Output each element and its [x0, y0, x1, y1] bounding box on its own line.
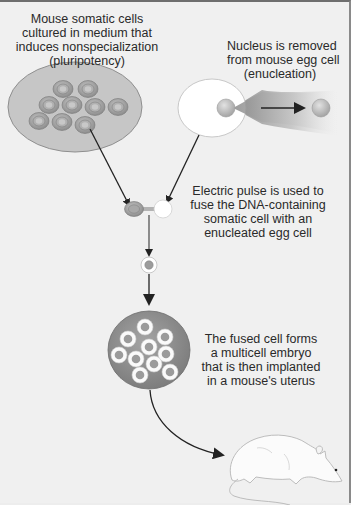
embryo: [108, 311, 190, 389]
arrow-embryo-to-mouse: [150, 390, 222, 455]
step-label-fusion: Electric pulse is used to fuse the DNA-c…: [178, 184, 338, 240]
fusing-cells: [125, 200, 173, 218]
step-label-embryo: The fused cell forms a multicell embryo …: [196, 332, 326, 388]
step-label-somatic-culture: Mouse somatic cells cultured in medium t…: [7, 12, 167, 68]
culture-dish: [8, 62, 142, 152]
egg-nucleus: [217, 99, 235, 117]
egg-cell: [178, 79, 340, 137]
step-label-enucleation: Nucleus is removed from mouse egg cell (…: [227, 39, 333, 81]
mouse-illustration: [230, 435, 342, 505]
removed-nucleus: [312, 99, 330, 117]
fused-cell: [141, 257, 157, 273]
